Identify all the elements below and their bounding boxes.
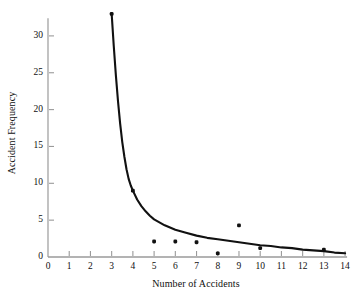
x-axis-tick-label: 6	[173, 262, 178, 272]
y-axis-tick-label: 0	[38, 252, 43, 262]
x-axis-tick-label: 10	[255, 262, 265, 272]
y-axis-tick-label: 20	[34, 105, 44, 115]
x-axis-tick-label: 3	[109, 262, 114, 272]
y-axis-tick-label: 25	[34, 68, 44, 78]
fitted-curve	[112, 14, 345, 254]
x-axis-tick-label: 12	[298, 262, 308, 272]
data-point-marker	[258, 246, 262, 250]
plot-canvas	[0, 0, 362, 298]
x-axis-tick-label: 9	[237, 262, 242, 272]
y-axis-tick-label: 30	[34, 31, 44, 41]
x-axis-tick-label: 14	[340, 262, 350, 272]
x-axis-tick-label: 0	[46, 262, 51, 272]
y-axis-tick-label: 15	[34, 142, 44, 152]
chart-figure: 01234567891011121314051015202530 Number …	[0, 0, 362, 298]
x-axis-tick-label: 11	[277, 262, 286, 272]
data-point-marker	[216, 251, 220, 255]
y-axis-title: Accident Frequency	[6, 92, 17, 175]
data-point-marker	[152, 240, 156, 244]
axes-group	[48, 18, 347, 257]
y-axis-tick-label: 5	[38, 215, 43, 225]
data-point-marker	[195, 240, 199, 244]
y-axis-tick-label: 10	[34, 179, 44, 189]
x-axis-title: Number of Accidents	[152, 278, 239, 289]
x-axis-tick-label: 5	[152, 262, 157, 272]
x-axis-tick-label: 4	[131, 262, 136, 272]
x-axis-tick-label: 13	[319, 262, 329, 272]
x-axis-tick-label: 7	[194, 262, 199, 272]
data-point-marker	[237, 223, 241, 227]
x-axis-tick-label: 1	[67, 262, 72, 272]
data-point-marker	[173, 240, 177, 244]
data-series-group	[110, 12, 345, 255]
x-axis-tick-label: 2	[88, 262, 93, 272]
x-axis-tick-label: 8	[215, 262, 220, 272]
